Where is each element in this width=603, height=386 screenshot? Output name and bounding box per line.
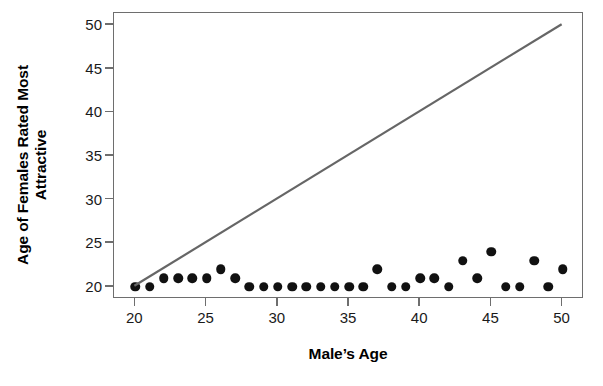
data-point (558, 265, 568, 275)
data-point (159, 273, 169, 283)
y-tick-50 (105, 23, 113, 25)
y-tick-30 (105, 198, 113, 200)
data-point (458, 256, 468, 266)
x-tick-50 (561, 298, 563, 306)
data-point (302, 282, 312, 292)
y-tick-25 (105, 241, 113, 243)
data-point (430, 273, 440, 283)
x-tick-35 (347, 298, 349, 306)
x-tick-45 (490, 298, 492, 306)
data-point (415, 273, 425, 283)
data-point (188, 273, 198, 283)
y-tick-45 (105, 67, 113, 69)
y-tick-20 (105, 285, 113, 287)
x-axis-title: Male’s Age (113, 345, 583, 363)
x-tick-label-35: 35 (340, 309, 357, 326)
x-tick-label-25: 25 (197, 309, 214, 326)
y-tick-label-40: 40 (62, 103, 102, 120)
data-point (230, 273, 240, 283)
x-tick-40 (418, 298, 420, 306)
scatter-plot-figure: Age of Females Rated Most Attractive 202… (0, 0, 603, 386)
data-point (145, 282, 155, 292)
y-axis-title: Age of Females Rated Most Attractive (4, 0, 60, 330)
x-tick-20 (134, 298, 136, 306)
y-tick-label-25: 25 (62, 234, 102, 251)
data-point (373, 265, 383, 275)
y-tick-40 (105, 111, 113, 113)
x-tick-label-50: 50 (553, 309, 570, 326)
data-point (358, 282, 368, 292)
data-point (544, 282, 554, 292)
x-tick-label-45: 45 (482, 309, 499, 326)
data-point (529, 256, 539, 266)
data-point (245, 282, 255, 292)
y-tick-label-30: 30 (62, 190, 102, 207)
x-tick-label-40: 40 (411, 309, 428, 326)
data-point (330, 282, 340, 292)
data-point (131, 282, 141, 292)
y-tick-35 (105, 154, 113, 156)
data-point (259, 282, 269, 292)
x-tick-label-30: 30 (268, 309, 285, 326)
data-point (444, 282, 454, 292)
data-point (344, 282, 354, 292)
data-point (287, 282, 297, 292)
data-point (515, 282, 525, 292)
y-tick-label-20: 20 (62, 277, 102, 294)
data-point (173, 273, 183, 283)
plot-area (113, 12, 583, 298)
y-axis-tick-labels: 20253035404550 (60, 0, 102, 386)
caption-sliver (0, 371, 603, 386)
data-point (501, 282, 511, 292)
data-point (273, 282, 283, 292)
data-point (487, 247, 497, 257)
x-tick-30 (276, 298, 278, 306)
data-point (316, 282, 326, 292)
y-axis-title-line-1: Age of Females Rated Most (14, 65, 32, 265)
data-point (472, 273, 482, 283)
data-point (202, 273, 212, 283)
x-tick-25 (205, 298, 207, 306)
y-tick-label-50: 50 (62, 16, 102, 33)
y-tick-label-35: 35 (62, 147, 102, 164)
data-point (387, 282, 397, 292)
data-point (216, 265, 226, 275)
x-tick-label-20: 20 (126, 309, 143, 326)
y-axis-title-line-2: Attractive (32, 130, 50, 201)
y-tick-label-45: 45 (62, 59, 102, 76)
data-point (401, 282, 411, 292)
